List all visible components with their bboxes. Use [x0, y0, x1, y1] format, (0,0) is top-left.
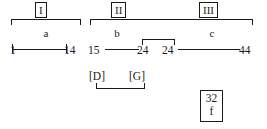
segment-label-c: c — [206, 27, 218, 39]
span-bracket-group-i — [11, 19, 81, 25]
segment-label-b: b — [111, 27, 123, 39]
number-line-end-24: 24 — [137, 44, 149, 56]
number-line-rule-a — [12, 49, 66, 50]
number-line-end-14: 14 — [64, 44, 76, 56]
segment-label-a: a — [40, 27, 52, 39]
span-bracket-markers-d-g — [96, 83, 145, 89]
marker-label-g: [G] — [129, 70, 145, 82]
linkage-map-figure: I II III a b c 1 14 15 24 24 44 [D] [G] … — [0, 0, 267, 129]
span-bracket-groups-ii-iii — [90, 19, 253, 25]
number-line-start-15: 15 — [88, 44, 100, 56]
marker-label-d: [D] — [89, 70, 105, 82]
group-label-box-i: I — [35, 2, 47, 18]
legend-box: 32 f — [200, 90, 223, 122]
legend-box-label: f — [204, 105, 219, 118]
legend-box-value: 32 — [204, 92, 219, 105]
group-label-box-iii: III — [199, 2, 218, 18]
number-line-rule-b — [105, 49, 139, 50]
number-line-end-44: 44 — [239, 44, 251, 56]
number-line-rule-c — [178, 49, 240, 50]
group-label-box-ii: II — [111, 2, 126, 18]
number-line-start-24: 24 — [162, 44, 174, 56]
